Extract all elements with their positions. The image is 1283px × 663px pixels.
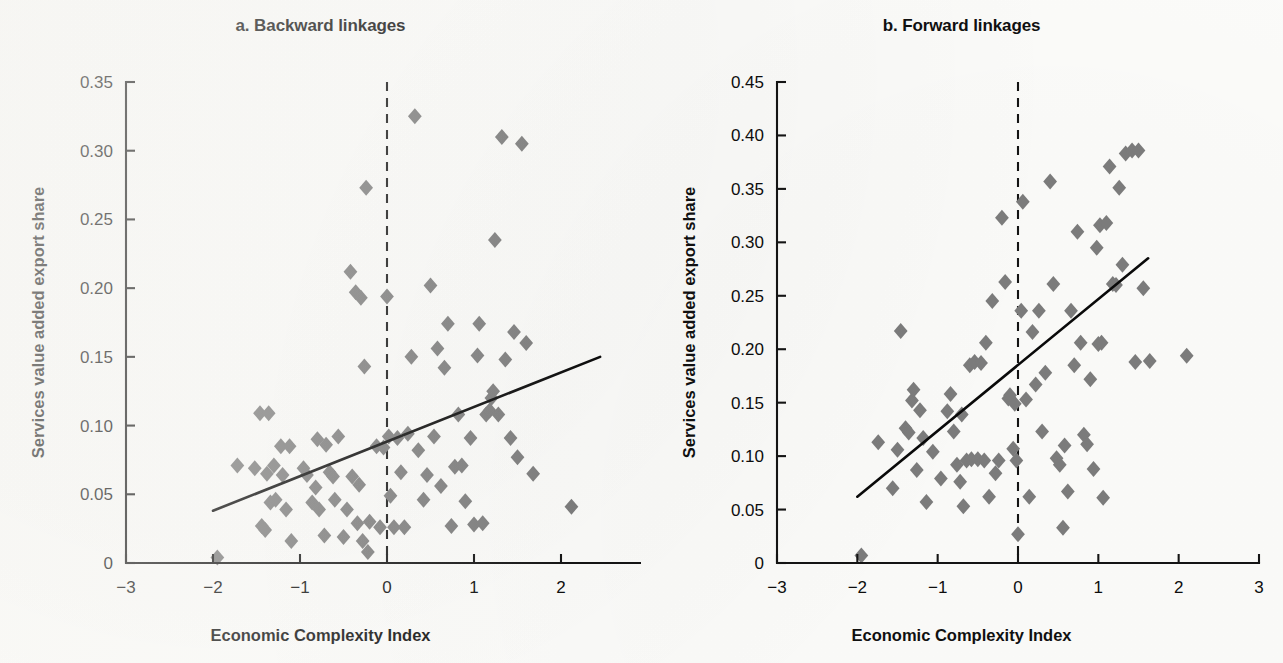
scatter-point [1090,240,1104,256]
scatter-point [886,480,900,496]
scatter-point [337,529,351,545]
scatter-point [309,479,323,495]
scatter-point [394,464,408,480]
scatter-point [411,442,425,458]
x-tick-label: 1 [1094,578,1103,597]
scatter-point [1067,357,1081,373]
scatter-point [1010,452,1024,468]
scatter-point [947,424,961,440]
x-tick-label: −3 [767,578,786,597]
y-tick-label: 0.25 [731,287,764,306]
x-tick-label: −1 [928,578,947,597]
scatter-point [279,501,293,517]
scatter-point [992,452,1006,468]
y-tick-label: 0 [104,554,113,573]
scatter-point [1019,391,1033,407]
scatter-point [519,335,533,351]
y-tick-label: 0.05 [731,501,764,520]
y-tick-label: 0.45 [731,73,764,92]
y-tick-label: 0.10 [731,447,764,466]
scatter-point [351,515,365,531]
scatter-point [1103,158,1117,174]
scatter-point [1071,224,1085,240]
scatter-point [344,264,358,280]
x-tick-label: −1 [290,578,309,597]
scatter-point [1029,376,1043,392]
scatter-point [1128,354,1142,370]
panel-backward-linkages: a. Backward linkages Services value adde… [0,0,641,663]
y-tick-label: 0.20 [731,340,764,359]
y-tick-label: 0.30 [80,142,113,161]
scatter-point [956,498,970,514]
y-tick-label: 0.25 [80,210,113,229]
scatter-point [495,129,509,145]
x-tick-label: 0 [1013,578,1022,597]
scatter-point [1143,353,1157,369]
scatter-point [1022,489,1036,505]
scatter-point [1035,424,1049,440]
scatter-point [1032,303,1046,319]
scatter-point [434,478,448,494]
y-tick-label: 0.15 [80,348,113,367]
scatter-point [944,386,958,402]
scatter-point [507,324,521,340]
scatter-point [408,108,422,124]
x-tick-label: 2 [556,578,565,597]
scatter-point [431,341,445,357]
y-tick-label: 0.40 [731,126,764,145]
scatter-point [926,444,940,460]
panel-b-plot: 00.050.100.150.200.250.300.350.400.45−3−… [641,0,1283,663]
scatter-point [1058,437,1072,453]
y-tick-label: 0.35 [80,73,113,92]
scatter-point [471,347,485,363]
panel-b-x-axis-title: Economic Complexity Index [641,626,1282,645]
scatter-point [910,462,924,478]
scatter-point [511,449,525,465]
scatter-point [420,467,434,483]
scatter-point [982,489,996,505]
y-tick-label: 0.20 [80,279,113,298]
scatter-point [417,492,431,508]
scatter-point [283,438,297,454]
axis-lines [126,82,641,563]
scatter-point [998,274,1012,290]
scatter-point [907,382,921,398]
scatter-point [1043,173,1057,189]
scatter-point [953,474,967,490]
scatter-point [1011,526,1025,542]
scatter-series [854,142,1193,563]
scatter-point [398,519,412,535]
scatter-point [498,352,512,368]
scatter-point [1056,520,1070,536]
x-tick-label: 2 [1174,578,1183,597]
scatter-point [472,316,486,332]
scatter-point [920,494,934,510]
y-tick-label: 0.15 [731,394,764,413]
scatter-point [979,335,993,351]
scatter-point [1180,348,1194,364]
scatter-point [565,499,579,515]
scatter-point [989,465,1003,481]
scatter-point [891,442,905,458]
scatter-point [284,533,298,549]
scatter-point [404,349,418,365]
scatter-point [1112,180,1126,196]
scatter-point [230,457,244,473]
x-tick-label: −2 [203,578,222,597]
scatter-point [934,471,948,487]
scatter-point [1136,280,1150,296]
scatter-point [1074,335,1088,351]
figure-root: a. Backward linkages Services value adde… [0,0,1283,663]
scatter-point [1046,276,1060,292]
y-tick-label: 0.10 [80,417,113,436]
scatter-point [262,405,276,421]
y-tick-label: 0.35 [731,180,764,199]
scatter-point [488,232,502,248]
trend-line [213,357,600,511]
scatter-point [458,493,472,509]
scatter-point [1083,371,1097,387]
scatter-point [464,430,478,446]
scatter-series [210,108,578,565]
scatter-point [1026,324,1040,340]
scatter-point [504,430,518,446]
